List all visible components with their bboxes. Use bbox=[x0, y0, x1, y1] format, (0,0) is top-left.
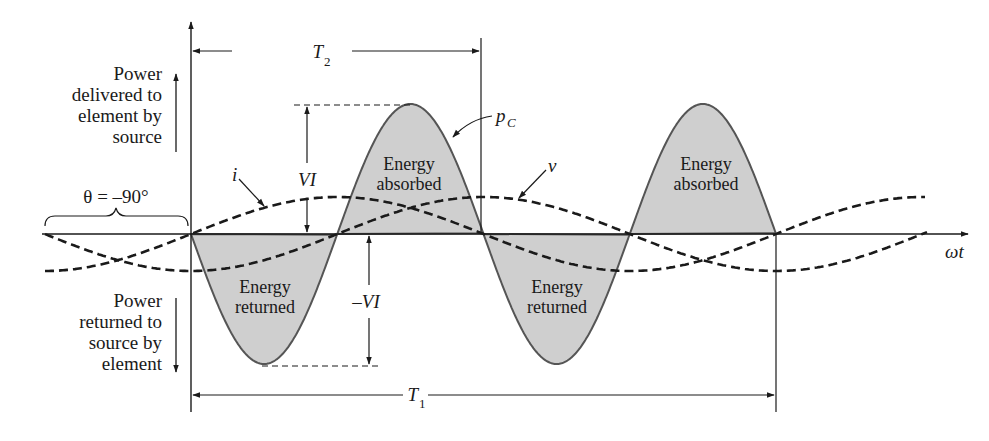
v-curve-label: v bbox=[519, 155, 557, 198]
t2-subscript: 2 bbox=[324, 54, 331, 69]
v-label: v bbox=[548, 155, 557, 176]
t2-label: T bbox=[312, 41, 324, 62]
energy-returned-2-line-2: returned bbox=[527, 297, 587, 317]
t1-subscript: 1 bbox=[419, 396, 426, 411]
x-axis-label: ωt bbox=[945, 241, 964, 262]
t2-dimension: T 2 bbox=[193, 41, 479, 69]
power-delivered-line-3: element by bbox=[78, 105, 162, 126]
energy-absorbed-2-line-1: Energy bbox=[680, 154, 732, 174]
energy-returned-label-2: Energy returned bbox=[527, 277, 587, 317]
t1-dimension: T 1 bbox=[193, 384, 774, 411]
pc-label: p bbox=[494, 105, 506, 126]
power-returned-annotation: Power returned to source by element bbox=[79, 290, 176, 374]
capacitor-power-diagram: T 2 T 1 VI –VI θ = –90° i v p C bbox=[0, 0, 989, 441]
energy-absorbed-label-2: Energy absorbed bbox=[674, 154, 739, 194]
theta-label: θ = –90° bbox=[83, 186, 148, 207]
energy-returned-1-line-1: Energy bbox=[239, 277, 291, 297]
energy-absorbed-2-line-2: absorbed bbox=[674, 174, 739, 194]
pc-curve-label: p C bbox=[453, 105, 516, 137]
power-returned-line-3: source by bbox=[89, 332, 163, 353]
power-returned-line-2: returned to bbox=[79, 311, 162, 332]
energy-returned-2-line-1: Energy bbox=[531, 277, 583, 297]
phase-angle-brace: θ = –90° bbox=[45, 186, 188, 226]
power-delivered-annotation: Power delivered to element by source bbox=[72, 63, 176, 152]
i-label: i bbox=[232, 164, 237, 185]
power-delivered-line-4: source bbox=[112, 126, 162, 147]
energy-absorbed-1-line-1: Energy bbox=[383, 154, 435, 174]
energy-returned-label-1: Energy returned bbox=[235, 277, 295, 317]
vi-negative-label: –VI bbox=[351, 291, 381, 312]
energy-absorbed-label-1: Energy absorbed bbox=[377, 154, 442, 194]
i-curve-label: i bbox=[232, 164, 264, 206]
power-delivered-line-2: delivered to bbox=[72, 84, 162, 105]
vi-positive-label: VI bbox=[298, 169, 318, 190]
energy-returned-1-line-2: returned bbox=[235, 297, 295, 317]
t1-label: T bbox=[407, 384, 419, 405]
pc-subscript: C bbox=[507, 115, 516, 130]
power-returned-line-1: Power bbox=[113, 290, 162, 311]
energy-absorbed-1-line-2: absorbed bbox=[377, 174, 442, 194]
power-returned-line-4: element bbox=[102, 353, 163, 374]
power-delivered-line-1: Power bbox=[113, 63, 162, 84]
